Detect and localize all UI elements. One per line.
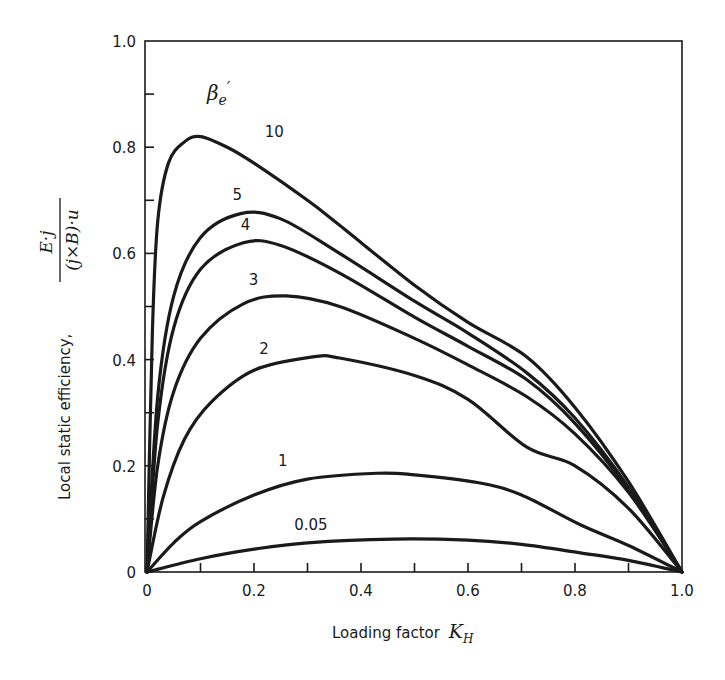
curve-beta-3: [147, 296, 682, 572]
legend-title: βe′: [206, 78, 231, 108]
plot-frame: [145, 41, 682, 572]
x-axis-subscript: H: [462, 632, 474, 646]
axis-ticks: [145, 94, 629, 572]
y-axis-denominator: (j×B)·u: [62, 209, 82, 271]
axis-tick-labels: 00.20.40.60.81.000.20.40.60.81.0: [112, 33, 694, 600]
curve-labels: 10543210.05: [233, 123, 328, 534]
x-tick-label: 0.2: [242, 582, 266, 600]
y-tick-label: 0.4: [112, 352, 136, 370]
y-axis-text: Local static efficiency,: [56, 334, 74, 500]
curve-label: 3: [249, 271, 259, 289]
curve-label: 10: [265, 123, 284, 141]
x-tick-label: 1.0: [670, 582, 694, 600]
y-tick-label: 1.0: [112, 33, 136, 51]
x-axis-text: Loading factor: [332, 624, 441, 642]
y-tick-label: 0.8: [112, 139, 136, 157]
y-tick-label: 0.6: [112, 245, 136, 263]
curve-label: 1: [278, 452, 288, 470]
curve-label: 0.05: [294, 516, 327, 534]
x-tick-label: 0.8: [563, 582, 587, 600]
y-axis-numerator: E·j: [36, 230, 56, 255]
x-axis-label: Loading factor KH: [332, 620, 474, 646]
x-tick-label: 0: [142, 582, 152, 600]
curve-label: 5: [233, 186, 243, 204]
y-axis-label: Local static efficiency, E·j (j×B)·u: [36, 198, 82, 500]
legend-symbol: β: [206, 81, 219, 105]
x-tick-label: 0.6: [456, 582, 480, 600]
curve-beta-5: [147, 212, 682, 572]
y-tick-label: 0: [126, 564, 136, 582]
curves: [147, 136, 682, 572]
curve-label: 4: [241, 216, 251, 234]
legend-prime: ′: [227, 78, 231, 97]
x-tick-label: 0.4: [349, 582, 373, 600]
efficiency-chart: 00.20.40.60.81.000.20.40.60.81.0 1054321…: [0, 0, 725, 680]
y-tick-label: 0.2: [112, 458, 136, 476]
curve-beta-4: [147, 241, 682, 572]
legend-subscript: e: [219, 92, 227, 108]
curve-label: 2: [259, 340, 269, 358]
